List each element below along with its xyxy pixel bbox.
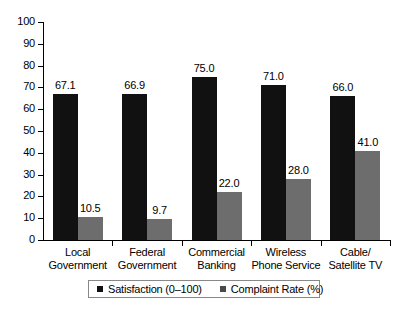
bar-value-label: 41.0	[346, 137, 389, 148]
category-label: Cable/Satellite TV	[313, 246, 398, 272]
bar	[53, 94, 78, 240]
bar	[217, 192, 242, 240]
y-axis-tick-label: 80	[5, 60, 35, 71]
legend-swatch-icon	[220, 286, 226, 292]
bar-value-label: 22.0	[208, 178, 251, 189]
y-axis-tick-label: 60	[5, 103, 35, 114]
category-label-line: Cable/	[313, 246, 398, 259]
y-axis-tick-label: 40	[5, 147, 35, 158]
y-axis-line	[43, 22, 44, 241]
bar	[78, 217, 103, 240]
legend-swatch-icon	[97, 286, 103, 292]
bar-value-label: 66.9	[113, 80, 156, 91]
legend-label: Complaint Rate (%)	[231, 284, 323, 295]
y-axis-tick-label: 0	[5, 234, 35, 245]
legend-item-satisfaction: Satisfaction (0–100)	[97, 284, 202, 295]
legend-label: Satisfaction (0–100)	[108, 284, 202, 295]
bar-value-label: 66.0	[321, 82, 364, 93]
y-axis-tick-label: 10	[5, 212, 35, 223]
bar	[122, 94, 147, 240]
y-axis-tick-label: 50	[5, 125, 35, 136]
bar-value-label: 75.0	[183, 63, 226, 74]
bar-value-label: 10.5	[69, 203, 112, 214]
y-axis-tick-label: 30	[5, 169, 35, 180]
y-axis-tick-label: 70	[5, 81, 35, 92]
bar	[355, 151, 380, 240]
bar	[330, 96, 355, 240]
x-axis-line	[43, 240, 391, 241]
bar	[192, 77, 217, 241]
y-axis-tick-label: 90	[5, 38, 35, 49]
legend-item-complaint-rate: Complaint Rate (%)	[220, 284, 323, 295]
bar	[147, 219, 172, 240]
bar-value-label: 28.0	[277, 165, 320, 176]
bar	[261, 85, 286, 240]
bar-chart: 1009080706050403020100 67.110.566.99.775…	[0, 0, 406, 313]
chart-legend: Satisfaction (0–100) Complaint Rate (%)	[88, 280, 320, 298]
y-axis-tick-label: 100	[5, 16, 35, 27]
bar-value-label: 9.7	[138, 205, 181, 216]
bar	[286, 179, 311, 240]
category-label-line: Satellite TV	[313, 259, 398, 272]
bar-value-label: 71.0	[252, 71, 295, 82]
bar-value-label: 67.1	[44, 80, 87, 91]
y-axis-tick-label: 20	[5, 190, 35, 201]
